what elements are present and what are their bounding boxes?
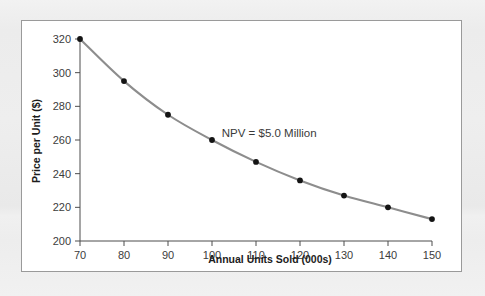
chart-annotations: NPV = $5.0 Million: [222, 127, 317, 139]
y-tick-label: 240: [53, 168, 71, 180]
x-axis-title: Annual Units Sold (000s): [208, 253, 332, 265]
line-chart: 200220240260280300320 708090100110120130…: [22, 21, 461, 271]
y-axis-title: Price per Unit ($): [30, 99, 42, 183]
data-point: [209, 137, 215, 143]
x-tick-label: 70: [74, 249, 86, 261]
data-point: [165, 112, 171, 118]
chart-plot-area: 200220240260280300320 708090100110120130…: [22, 21, 461, 271]
data-point: [121, 78, 127, 84]
figure-frame: 200220240260280300320 708090100110120130…: [21, 20, 462, 272]
data-point: [385, 204, 391, 210]
data-point: [253, 159, 259, 165]
y-tick-label: 260: [53, 134, 71, 146]
y-axis-tick-labels: 200220240260280300320: [53, 33, 71, 247]
y-tick-label: 320: [53, 33, 71, 45]
y-tick-label: 200: [53, 235, 71, 247]
x-axis-ticks: [80, 241, 432, 246]
x-tick-label: 150: [423, 249, 441, 261]
x-tick-label: 130: [335, 249, 353, 261]
y-tick-label: 300: [53, 67, 71, 79]
x-tick-label: 90: [162, 249, 174, 261]
data-point: [297, 178, 303, 184]
npv-annotation-label: NPV = $5.0 Million: [222, 127, 317, 139]
x-tick-label: 140: [379, 249, 397, 261]
data-point: [77, 36, 83, 42]
y-tick-label: 280: [53, 100, 71, 112]
y-axis-ticks: [75, 39, 80, 241]
data-point: [429, 216, 435, 222]
data-point: [341, 193, 347, 199]
y-tick-label: 220: [53, 201, 71, 213]
x-tick-label: 80: [118, 249, 130, 261]
